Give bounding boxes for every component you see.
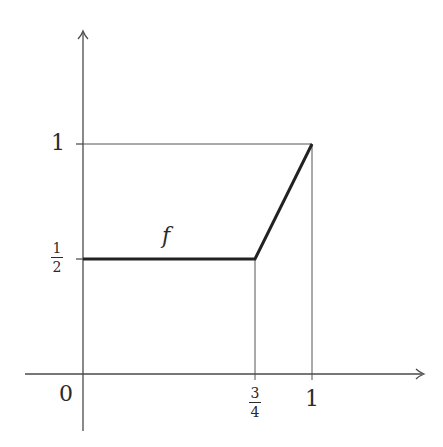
y-tick-label-half: 1 2	[51, 241, 63, 274]
x-tick-label-three-quarters: 3 4	[249, 386, 261, 419]
origin-label: 0	[59, 383, 73, 405]
fraction-bar	[249, 402, 261, 403]
y-tick-label-one: 1	[51, 132, 65, 154]
plot-canvas	[0, 0, 443, 447]
x-three-quarters-numerator: 3	[251, 386, 260, 400]
x-three-quarters-denominator: 4	[251, 405, 260, 419]
x-tick-label-one: 1	[305, 388, 319, 410]
function-label-f: f	[162, 225, 170, 247]
y-half-numerator: 1	[53, 241, 62, 255]
y-half-denominator: 2	[53, 260, 62, 274]
function-f-curve	[83, 144, 312, 259]
fraction-bar	[51, 257, 63, 258]
